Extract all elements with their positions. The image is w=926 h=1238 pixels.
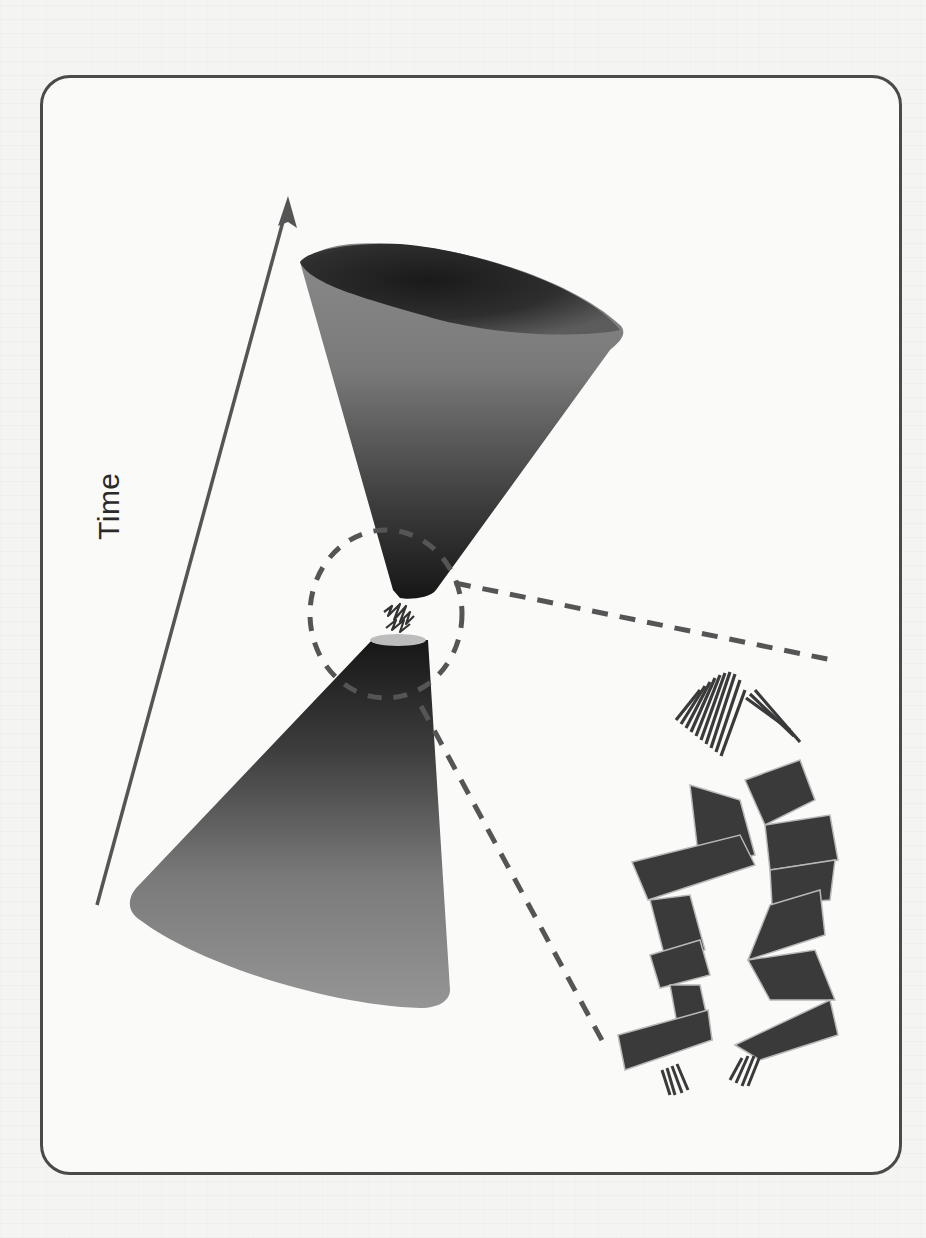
lower-cone <box>130 634 450 1008</box>
arrow-head-icon <box>278 196 297 228</box>
time-axis-label: Time <box>92 472 126 540</box>
quantum-bridge <box>384 604 414 632</box>
ribbon-inset <box>618 672 838 1095</box>
upper-cone <box>300 243 623 598</box>
diagram-canvas <box>0 0 926 1238</box>
